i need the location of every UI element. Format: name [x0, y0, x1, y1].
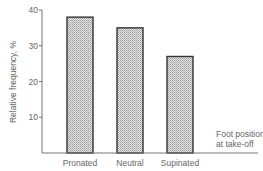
bars [67, 17, 193, 153]
x-axis-label-line2: at take-off [216, 139, 254, 149]
x-tick-label: Supinated [161, 158, 200, 168]
bar-supinated [167, 56, 193, 153]
y-tick-label: 20 [29, 77, 39, 87]
chart-svg: 10203040 PronatedNeutralSupinated Relati… [0, 0, 263, 171]
y-tick-label: 30 [29, 41, 39, 51]
y-tick-label: 40 [29, 5, 39, 15]
x-axis-label-line1: Foot position [216, 129, 263, 139]
bar-pronated [67, 17, 93, 153]
y-axis: 10203040 [29, 5, 42, 153]
bar-neutral [117, 28, 143, 153]
y-axis-label: Relative frequency, % [8, 41, 18, 123]
x-tick-label: Neutral [116, 158, 144, 168]
x-tick-label: Pronated [63, 158, 98, 168]
bar-chart: 10203040 PronatedNeutralSupinated Relati… [0, 0, 263, 171]
x-axis: PronatedNeutralSupinated [42, 153, 258, 168]
y-tick-label: 10 [29, 112, 39, 122]
